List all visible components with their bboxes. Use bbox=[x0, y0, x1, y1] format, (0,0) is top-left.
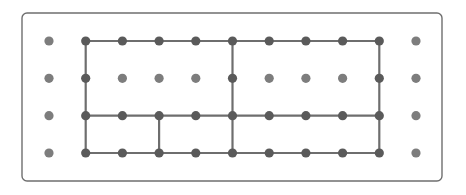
grid-dot bbox=[301, 111, 310, 120]
grid-dot bbox=[301, 36, 310, 45]
grid-dot bbox=[228, 74, 237, 83]
grid-dot bbox=[191, 74, 200, 83]
grid-dot bbox=[118, 148, 127, 157]
grid-dot bbox=[81, 36, 90, 45]
grid-dot bbox=[228, 148, 237, 157]
grid-dot bbox=[191, 148, 200, 157]
grid-dot bbox=[375, 74, 384, 83]
grid-dot bbox=[155, 74, 164, 83]
grid-dot bbox=[81, 111, 90, 120]
grid-dot bbox=[375, 148, 384, 157]
grid-dot bbox=[118, 111, 127, 120]
grid-dot bbox=[191, 36, 200, 45]
grid-dot bbox=[81, 148, 90, 157]
grid-dot bbox=[228, 111, 237, 120]
grid-dot bbox=[44, 111, 53, 120]
grid-dot bbox=[265, 148, 274, 157]
grid-dot bbox=[411, 36, 420, 45]
grid-dot bbox=[44, 74, 53, 83]
grid-dot bbox=[191, 111, 200, 120]
dot-grid-diagram bbox=[0, 0, 466, 195]
grid-dot bbox=[411, 74, 420, 83]
grid-dot bbox=[301, 74, 310, 83]
grid-dot bbox=[338, 111, 347, 120]
grid-dot bbox=[118, 74, 127, 83]
grid-dot bbox=[265, 74, 274, 83]
partition-lines bbox=[86, 41, 380, 153]
grid-dot bbox=[155, 148, 164, 157]
grid-dot bbox=[81, 74, 90, 83]
grid-dot bbox=[265, 111, 274, 120]
grid-dot bbox=[338, 36, 347, 45]
grid-dot bbox=[411, 111, 420, 120]
grid-dot bbox=[228, 36, 237, 45]
grid-dot bbox=[411, 148, 420, 157]
grid-dot bbox=[44, 148, 53, 157]
grid-dot bbox=[375, 36, 384, 45]
grid-dot bbox=[265, 36, 274, 45]
grid-dot bbox=[338, 74, 347, 83]
grid-dot bbox=[375, 111, 384, 120]
grid-dot bbox=[155, 111, 164, 120]
grid-dot bbox=[301, 148, 310, 157]
grid-dot bbox=[155, 36, 164, 45]
grid-dot bbox=[44, 36, 53, 45]
grid-dot bbox=[118, 36, 127, 45]
grid-dot bbox=[338, 148, 347, 157]
